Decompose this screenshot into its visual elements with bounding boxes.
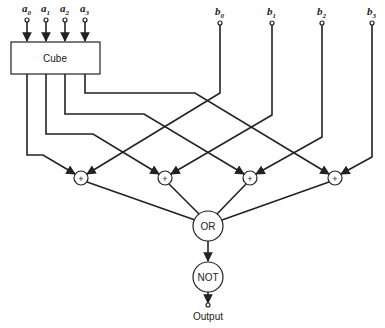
terminal-a3 [83, 18, 87, 22]
not-label: NOT [197, 272, 218, 283]
adder-4: + [328, 171, 342, 185]
wire-b0-adder1 [87, 25, 220, 174]
wire-a1-adder2 [46, 74, 159, 174]
terminal-b1 [270, 21, 274, 25]
input-b-terminals [218, 21, 374, 25]
label-b0: b0 [215, 5, 225, 20]
output-terminal [206, 303, 210, 307]
plus-icon: + [78, 174, 83, 184]
input-a-labels: a0 a1 a2 a3 [22, 2, 90, 17]
label-b2: b2 [317, 5, 327, 20]
terminal-a1 [44, 18, 48, 22]
label-a1: a1 [41, 2, 50, 17]
label-a2: a2 [60, 2, 70, 17]
wire-a2-adder3 [65, 74, 244, 174]
cube-label: Cube [43, 53, 67, 64]
plus-icon: + [332, 174, 337, 184]
wire-b3-adder4 [341, 25, 372, 174]
terminal-b3 [370, 21, 374, 25]
adder-3: + [243, 171, 257, 185]
plus-icon: + [162, 174, 167, 184]
label-a3: a3 [80, 2, 90, 17]
adder-2: + [158, 171, 172, 185]
b-input-wires [87, 25, 372, 174]
label-b1: b1 [267, 5, 276, 20]
wire-a0-adder1 [27, 74, 75, 174]
input-a-wires [25, 18, 87, 41]
plus-icon: + [247, 174, 252, 184]
output-label: Output [193, 311, 223, 322]
input-b-labels: b0 b1 b2 b3 [215, 5, 377, 20]
terminal-a0 [25, 18, 29, 22]
terminal-b2 [320, 21, 324, 25]
adder-1: + [74, 171, 88, 185]
label-b3: b3 [367, 5, 377, 20]
wire-b1-adder2 [171, 25, 272, 174]
wire-a3-adder4 [85, 74, 329, 174]
or-label: OR [201, 221, 216, 232]
circuit-diagram: a0 a1 a2 a3 Cube b0 b1 b2 b3 [0, 0, 385, 328]
terminal-a2 [63, 18, 67, 22]
label-a0: a0 [22, 2, 32, 17]
wire-b2-adder3 [256, 25, 322, 174]
terminal-b0 [218, 21, 222, 25]
